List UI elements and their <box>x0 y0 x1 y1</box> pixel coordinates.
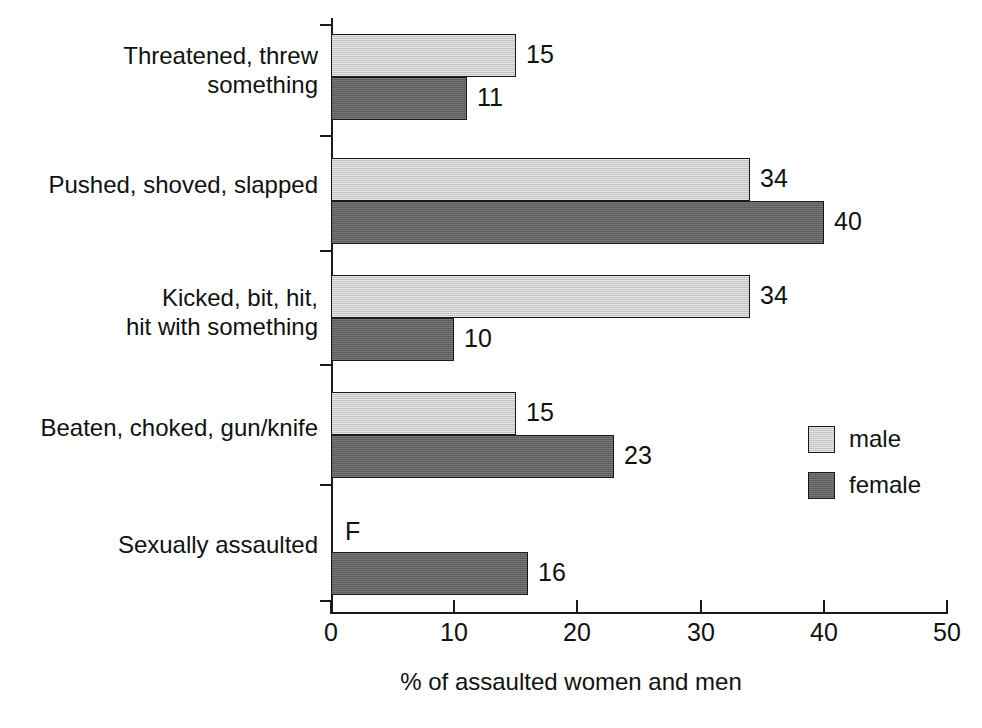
x-axis-tick <box>946 600 948 614</box>
x-axis-tick <box>330 600 332 614</box>
bar-female-kicked <box>331 318 454 361</box>
bar-value-female-beaten: 23 <box>624 441 652 470</box>
category-label-kicked: Kicked, bit, hit, hit with something <box>8 283 318 342</box>
bar-female-sexually-assaulted <box>331 552 528 595</box>
bar-female-pushed <box>331 201 824 244</box>
category-label-line: hit with something <box>8 312 318 341</box>
legend-label-female: female <box>849 471 921 499</box>
bar-chart: Threatened, threw something Pushed, shov… <box>0 0 982 728</box>
category-label-line: Sexually assaulted <box>8 530 318 559</box>
x-axis-tick <box>453 600 455 614</box>
category-label-line: Pushed, shoved, slapped <box>8 170 318 199</box>
bar-value-female-kicked: 10 <box>464 324 492 353</box>
bar-value-female-threatened: 11 <box>477 83 503 112</box>
legend-swatch-male-icon <box>808 426 835 453</box>
bar-value-male-pushed: 34 <box>760 164 788 193</box>
x-axis-tick-label-50: 50 <box>933 618 961 647</box>
x-axis-tick-label-30: 30 <box>687 618 715 647</box>
category-label-beaten: Beaten, choked, gun/knife <box>8 413 318 442</box>
x-axis-tick-label-20: 20 <box>563 618 591 647</box>
category-label-line: Kicked, bit, hit, <box>8 283 318 312</box>
legend-swatch-female-icon <box>808 472 835 499</box>
x-axis-title-text: % of assaulted women and men <box>400 668 742 696</box>
bar-value-male-beaten: 15 <box>526 398 554 427</box>
category-axis-labels: Threatened, threw something Pushed, shov… <box>0 0 318 620</box>
category-label-line: Threatened, threw something <box>8 41 318 100</box>
bar-value-male-sexually-assaulted: F <box>345 517 360 546</box>
bar-male-kicked <box>331 275 750 318</box>
bar-male-beaten <box>331 392 516 435</box>
category-label-pushed: Pushed, shoved, slapped <box>8 170 318 199</box>
bar-male-threatened <box>331 34 516 77</box>
x-axis-tick-label-0: 0 <box>324 618 338 647</box>
x-axis-tick-label-40: 40 <box>810 618 838 647</box>
x-axis-tick-label-10: 10 <box>440 618 468 647</box>
x-axis-tick <box>700 600 702 614</box>
bar-female-beaten <box>331 435 614 478</box>
bar-value-female-sexually-assaulted: 16 <box>538 558 566 587</box>
chart-legend: male female <box>808 416 921 508</box>
legend-item-male: male <box>808 416 921 462</box>
legend-label-male: male <box>849 425 901 453</box>
x-axis-tick <box>576 600 578 614</box>
bar-female-threatened <box>331 77 467 120</box>
category-label-threatened: Threatened, threw something <box>8 41 318 100</box>
bar-value-male-threatened: 15 <box>526 40 554 69</box>
category-label-sexually-assaulted: Sexually assaulted <box>8 530 318 559</box>
x-axis-title: % of assaulted women and men <box>0 668 982 696</box>
x-axis-tick <box>823 600 825 614</box>
legend-item-female: female <box>808 462 921 508</box>
bar-value-female-pushed: 40 <box>834 207 862 236</box>
bar-value-male-kicked: 34 <box>760 281 788 310</box>
plot-area: 15 11 34 40 34 10 15 23 F 16 <box>331 18 947 613</box>
bar-male-pushed <box>331 158 750 201</box>
category-label-line: Beaten, choked, gun/knife <box>8 413 318 442</box>
